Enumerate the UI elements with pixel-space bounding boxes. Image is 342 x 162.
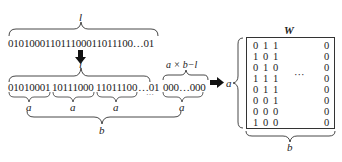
cell: 0 <box>324 106 329 117</box>
segment-pad: 000…000 <box>163 81 206 93</box>
segment-1: 01010001 <box>8 81 50 93</box>
cell: 1 <box>273 40 278 51</box>
cell: 1 <box>273 73 278 84</box>
cell: 1 <box>253 73 258 84</box>
matrix-row: 1 0 1 0 <box>247 51 334 62</box>
top-bitstring: 010100011011100011011100…01 <box>8 37 154 49</box>
segment-3: 11011100 <box>96 81 137 93</box>
cell: 0 <box>324 73 329 84</box>
cell: 0 <box>273 117 278 128</box>
top-l-label: l <box>79 11 82 23</box>
cell: 0 <box>324 117 329 128</box>
matrix-ellipsis: ··· <box>294 69 305 80</box>
cell: 1 <box>263 84 268 95</box>
cell: 0 <box>253 84 258 95</box>
matrix-w: 0 1 1 0 1 0 1 0 0 1 0 0 1 1 1 ··· 0 0 1 … <box>246 37 335 129</box>
top-brace <box>9 22 158 36</box>
cell: 0 <box>253 40 258 51</box>
cell: 1 <box>273 51 278 62</box>
cell: 0 <box>263 117 268 128</box>
right-arrow-icon <box>210 77 224 88</box>
cell: 0 <box>324 40 329 51</box>
matrix-row: 1 1 1 ··· 0 <box>247 73 334 84</box>
pad-brace <box>163 70 208 80</box>
cell: 1 <box>253 51 258 62</box>
matrix-a-label: a <box>226 77 232 89</box>
matrix-row: 0 1 1 0 <box>247 40 334 51</box>
cell: 1 <box>273 84 278 95</box>
pad-label: a × b−l <box>166 59 197 70</box>
a-label-2: a <box>70 101 76 113</box>
cell: 0 <box>263 106 268 117</box>
matrix-row: 0 0 1 0 <box>247 95 334 106</box>
cell: 0 <box>324 51 329 62</box>
cell: 0 <box>263 95 268 106</box>
cell: 0 <box>253 62 258 73</box>
a-label-1: a <box>26 101 32 113</box>
b-brace <box>27 111 181 124</box>
matrix-row: 0 0 0 0 <box>247 106 334 117</box>
cell: 1 <box>263 62 268 73</box>
matrix-row: 0 1 0 0 <box>247 62 334 73</box>
cell: 0 <box>253 106 258 117</box>
matrix-title: W <box>284 24 294 36</box>
matrix-row: 1 0 0 0 <box>247 117 334 128</box>
cell: 1 <box>263 40 268 51</box>
cell: 0 <box>324 95 329 106</box>
matrix-b-label: b <box>287 141 293 153</box>
matrix-row-brace <box>233 38 243 128</box>
a-label-4: a <box>179 101 185 113</box>
b-label: b <box>99 124 105 136</box>
cell: 1 <box>273 95 278 106</box>
a-label-3: a <box>113 101 119 113</box>
cell: 1 <box>253 117 258 128</box>
cell: 0 <box>263 51 268 62</box>
segment-dots: … <box>146 88 154 97</box>
middle-l-label: l <box>79 58 82 70</box>
cell: 0 <box>324 62 329 73</box>
middle-brace <box>9 68 150 82</box>
cell: 0 <box>253 95 258 106</box>
matrix-row: 0 1 1 0 <box>247 84 334 95</box>
cell: 0 <box>324 84 329 95</box>
cell: 0 <box>273 62 278 73</box>
cell: 1 <box>263 73 268 84</box>
cell: 0 <box>273 106 278 117</box>
segment-2: 10111000 <box>52 81 94 93</box>
